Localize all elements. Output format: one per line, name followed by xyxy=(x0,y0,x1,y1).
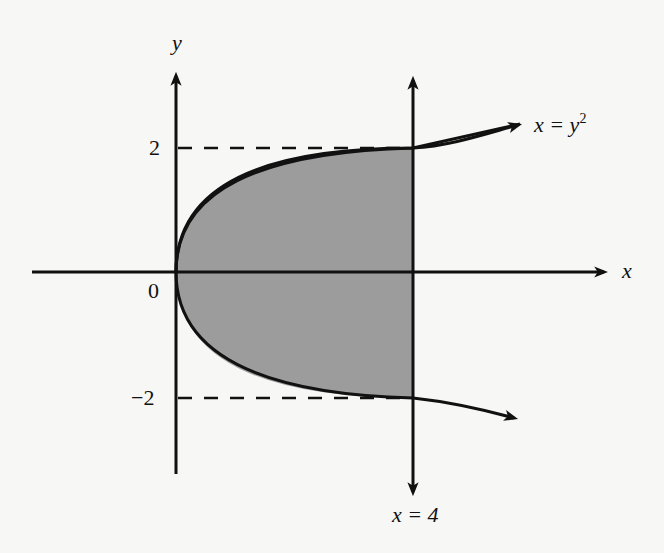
origin-label: 0 xyxy=(148,278,159,303)
line-label: x = 4 xyxy=(391,502,439,527)
curve-label-exponent: 2 xyxy=(579,111,586,126)
curve-label-base: x = y xyxy=(533,112,580,137)
tick-label-y-2: 2 xyxy=(149,135,160,160)
tick-label-y-neg2: −2 xyxy=(131,385,154,410)
x-axis-label: x xyxy=(621,258,632,283)
curve-label: x = y2 xyxy=(533,111,586,137)
y-axis-label: y xyxy=(170,30,182,55)
parabola-region-diagram: y x 0 2 −2 x = y2 x = 4 xyxy=(0,0,664,553)
